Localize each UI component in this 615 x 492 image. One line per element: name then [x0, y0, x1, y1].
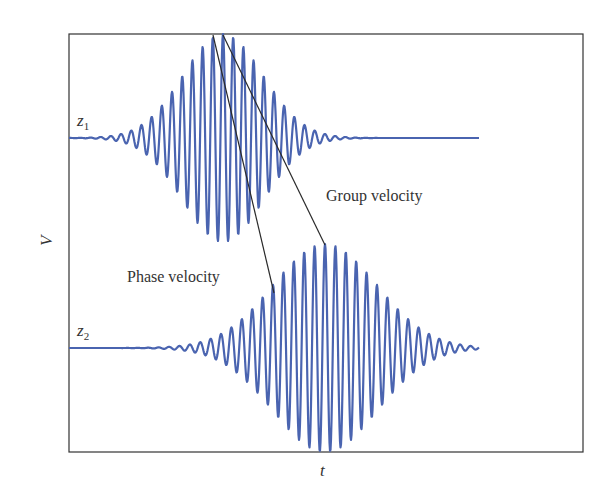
x-axis-label: t [320, 461, 326, 480]
y-axis-label: V [37, 233, 56, 246]
wave-packet-diagram: z1 z2 Group velocity Phase velocity t V [0, 0, 615, 492]
trace-label-z1-sub: 1 [84, 120, 90, 132]
trace-label-z2: z2 [76, 321, 89, 342]
trace-label-z2-sub: 2 [84, 330, 90, 342]
group-velocity-label: Group velocity [326, 187, 422, 205]
trace-label-z1: z1 [76, 111, 89, 132]
plot-frame [69, 34, 583, 452]
phase-velocity-label: Phase velocity [127, 268, 220, 286]
wave-trace-z1 [69, 34, 479, 241]
phase-velocity-line [213, 35, 274, 293]
